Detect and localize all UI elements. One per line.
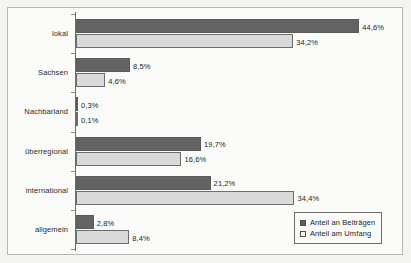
bar-value-1-2: 0,1% [81,116,99,125]
legend-item-umfang[interactable]: Anteil am Umfang [300,228,375,239]
category-label-0: lokal [8,29,68,38]
category-label-3: überregional [8,147,68,156]
legend: Anteil an Beiträgen Anteil am Umfang [294,212,382,244]
bar-value-1-0: 34,2% [296,38,318,47]
bar-1-4[interactable] [76,191,294,205]
axis-tick-2 [71,92,75,93]
axis-tick-0 [71,14,75,15]
bar-value-0-1: 8,5% [133,62,151,71]
legend-item-label: Anteil an Beiträgen [310,218,375,227]
category-label-1: Sachsen [8,68,68,77]
bar-1-0[interactable] [76,34,293,48]
bar-value-0-4: 21,2% [214,179,236,188]
bar-value-0-2: 0,3% [81,101,99,110]
bar-1-2[interactable] [76,112,78,126]
bar-0-4[interactable] [76,176,211,190]
bar-1-3[interactable] [76,152,181,166]
bar-0-1[interactable] [76,58,130,72]
bar-value-1-4: 34,4% [297,194,319,203]
legend-item-beitraegen[interactable]: Anteil an Beiträgen [300,217,375,228]
chart-page: lokalSachsenNachbarlandüberregionalinter… [0,0,411,263]
dark-square-icon [300,220,306,226]
axis-tick-3 [71,132,75,133]
bar-0-2[interactable] [76,97,78,111]
category-label-2: Nachbarland [8,107,68,116]
bar-value-1-5: 8,4% [132,234,150,243]
axis-tick-1 [71,53,75,54]
axis-tick-4 [71,171,75,172]
bar-1-1[interactable] [76,73,105,87]
legend-item-label: Anteil am Umfang [310,229,371,238]
bar-value-0-3: 19,7% [204,140,226,149]
bar-0-3[interactable] [76,137,201,151]
bar-0-5[interactable] [76,215,94,229]
axis-tick-5 [71,210,75,211]
bar-value-1-3: 16,6% [184,155,206,164]
bar-0-0[interactable] [76,19,359,33]
chart-frame: lokalSachsenNachbarlandüberregionalinter… [7,7,403,255]
category-label-4: international [8,186,68,195]
bar-1-5[interactable] [76,230,129,244]
bar-value-1-1: 4,6% [108,77,126,86]
light-square-icon [300,231,306,237]
category-label-5: allgemein [8,225,68,234]
axis-tick-end [71,249,75,250]
bar-value-0-0: 44,6% [362,23,384,32]
bar-value-0-5: 2,8% [97,219,115,228]
